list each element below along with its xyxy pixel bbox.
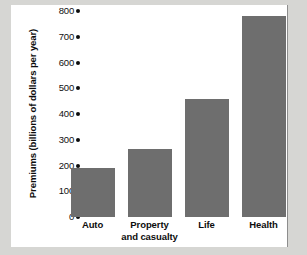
bar-0 [71,168,115,217]
bar-2 [185,99,229,217]
bar-1 [128,149,172,217]
category-label-line: and casualty [113,231,187,243]
chart-figure: Premiums (billions of dollars per year) … [0,0,307,255]
chart-panel: Premiums (billions of dollars per year) … [11,5,288,247]
category-label-line: Health [227,219,301,231]
x-axis-categories: AutoPropertyand casualtyLifeHealth [64,219,292,251]
plot-area [64,11,292,217]
category-label-3: Health [227,219,301,231]
bar-3 [242,16,286,217]
